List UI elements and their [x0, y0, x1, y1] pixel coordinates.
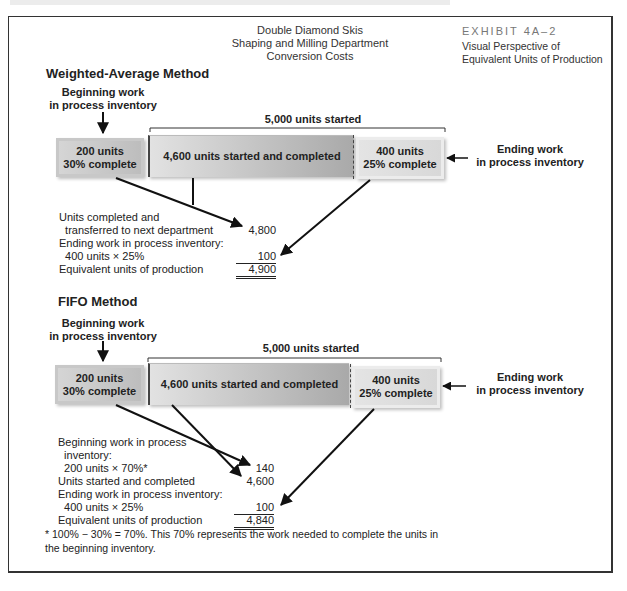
wa-row-line: 400 units × 25% [59, 250, 223, 263]
fifo-started-label: 5,000 units started [246, 342, 376, 355]
exhibit-subtitle-line: Visual Perspective of [462, 40, 603, 53]
fifo-row-ending-value: 100 [234, 501, 274, 515]
wa-divider [353, 135, 354, 179]
fifo-row-line: 200 units × 70%* [58, 462, 186, 475]
fifo-row-equivalent-label: Equivalent units of production [58, 514, 202, 527]
wa-ending-box: 400 units25% complete [356, 137, 444, 179]
wa-started-label: 5,000 units started [248, 113, 378, 126]
fifo-ending-units: 400 units [359, 374, 432, 387]
title-department: Shaping and Milling Department [210, 37, 410, 50]
fifo-ending-pct: 25% complete [359, 387, 432, 400]
wa-row-ending-label: Ending work in process inventory: 400 un… [59, 237, 223, 263]
wa-ending-label-line: in process inventory [470, 156, 590, 169]
wa-row-ending-value: 100 [236, 250, 276, 264]
fifo-beginning-box: 200 units30% complete [55, 365, 144, 404]
wa-beginning-pct: 30% complete [63, 158, 136, 171]
fifo-beginning-label-line: Beginning work [38, 317, 168, 330]
footnote: * 100% − 30% = 70%. This 70% represents … [45, 527, 485, 555]
fifo-ending-label: Ending work in process inventory [470, 371, 590, 397]
wa-ending-label-line: Ending work [470, 143, 590, 156]
fifo-beginning-label-line: in process inventory [38, 330, 168, 343]
wa-beginning-label: Beginning work in process inventory [38, 86, 168, 112]
fifo-ending-label-line: in process inventory [470, 384, 590, 397]
weighted-average-heading: Weighted-Average Method [46, 66, 209, 81]
fifo-beginning-pct: 30% complete [63, 385, 136, 398]
fifo-row-ending-label: Ending work in process inventory: 400 un… [58, 488, 222, 514]
wa-ending-pct: 25% complete [363, 158, 436, 171]
wa-started-completed-box: 4,600 units started and completed [148, 135, 354, 177]
wa-beginning-units: 200 units [63, 145, 136, 158]
fifo-row-started-label: Units started and completed [58, 475, 195, 488]
fifo-row-line: Ending work in process inventory: [58, 488, 222, 501]
wa-row-equivalent-value: 4,900 [236, 263, 276, 279]
wa-ending-units: 400 units [363, 145, 436, 158]
fifo-heading: FIFO Method [58, 294, 137, 309]
wa-beginning-label-line: Beginning work [38, 86, 168, 99]
fifo-row-line: inventory: [58, 449, 186, 462]
title-company: Double Diamond Skis [210, 24, 410, 37]
footnote-line: * 100% − 30% = 70%. This 70% represents … [45, 527, 485, 541]
fifo-started-completed-box: 4,600 units started and completed [148, 363, 349, 405]
fifo-row-beginning-label: Beginning work in process inventory: 200… [58, 436, 186, 475]
fifo-row-started-value: 4,600 [234, 475, 274, 488]
fifo-row-line: Beginning work in process [58, 436, 186, 449]
wa-row-equivalent-label: Equivalent units of production [59, 263, 203, 276]
wa-row-completed-value: 4,800 [236, 224, 276, 237]
exhibit-title: Double Diamond Skis Shaping and Milling … [210, 24, 410, 63]
wa-ending-label: Ending work in process inventory [470, 143, 590, 169]
wa-beginning-label-line: in process inventory [38, 99, 168, 112]
title-costs: Conversion Costs [210, 50, 410, 63]
fifo-ending-label-line: Ending work [470, 371, 590, 384]
fifo-ending-box: 400 units25% complete [352, 366, 440, 408]
page-top-edge [10, 0, 450, 5]
wa-beginning-box: 200 units30% complete [56, 138, 144, 177]
wa-row-line: Units completed and [59, 211, 213, 224]
exhibit-subtitle: Visual Perspective of Equivalent Units o… [462, 40, 603, 66]
wa-row-completed-label: Units completed and transferred to next … [59, 211, 213, 237]
wa-row-line: Ending work in process inventory: [59, 237, 223, 250]
exhibit-subtitle-line: Equivalent Units of Production [462, 53, 603, 66]
footnote-line: the beginning inventory. [45, 541, 485, 555]
fifo-divider [350, 364, 351, 408]
fifo-beginning-label: Beginning work in process inventory [38, 317, 168, 343]
fifo-row-line: 400 units × 25% [58, 501, 222, 514]
fifo-beginning-units: 200 units [63, 372, 136, 385]
exhibit-number: EXHIBIT 4A–2 [462, 25, 557, 37]
wa-row-line: transferred to next department [59, 224, 213, 237]
fifo-row-beginning-value: 140 [234, 462, 274, 475]
